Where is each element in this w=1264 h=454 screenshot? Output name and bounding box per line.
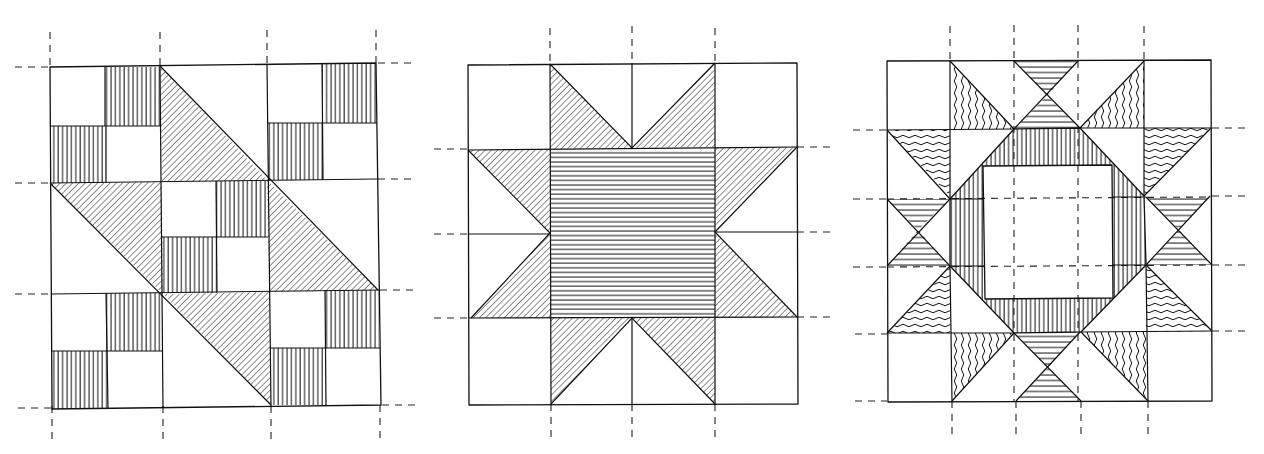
quilt-block-1 (15, 30, 416, 442)
quilt-block-3 (853, 25, 1248, 440)
vertical-stripe-ring (950, 128, 1146, 333)
star-center (550, 149, 715, 318)
quilt-block-2 (434, 26, 832, 440)
hourglass-triangles (887, 61, 1212, 401)
vertical-stripe-patches (50, 63, 379, 409)
quilt-figure: Three hand-drawn quilt block designs wit… (0, 0, 1264, 454)
